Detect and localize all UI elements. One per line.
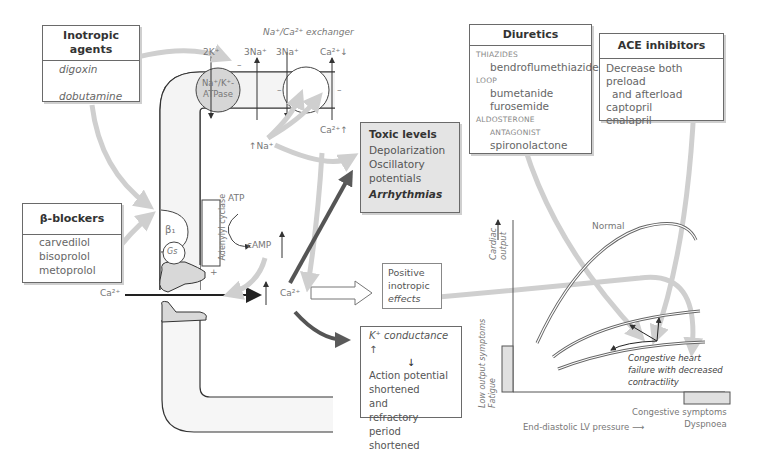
label-line: contractility xyxy=(628,376,723,388)
beta1-receptor-label: β₁ xyxy=(165,224,175,235)
effect-text: Positive xyxy=(388,266,436,279)
ion-label: Ca²⁺ xyxy=(100,288,120,298)
drug-item: bisoprolol xyxy=(39,249,105,263)
ion-label: 3Na⁺ xyxy=(276,47,299,57)
plus-sign: + xyxy=(210,267,218,277)
ion-label: Ca²⁺↓ xyxy=(320,47,348,57)
ion-label: 3Na⁺ xyxy=(244,47,267,57)
chf-label: Congestive heartfailure with decreasedco… xyxy=(628,352,723,388)
congestive-label: Congestive symptomsDyspnoea xyxy=(632,406,727,430)
drug-item: enalapril xyxy=(606,114,717,127)
positive-inotropic-box: Positive inotropic effects xyxy=(382,263,442,309)
label-line: Low output symptoms xyxy=(478,319,488,408)
down-arrow-icon: ↓ xyxy=(369,357,453,369)
congestive-bar xyxy=(684,392,730,404)
label-line: Congestive symptoms xyxy=(632,406,727,418)
beta-blockers-box: β-blockers carvedilol bisoprolol metopro… xyxy=(22,203,122,283)
diuretics-box: Diuretics THIAZIDES bendroflumethiazide … xyxy=(469,24,592,154)
toxic-effect: potentials xyxy=(369,171,451,185)
effect-text: shortened xyxy=(369,383,453,397)
box-title: Inotropic xyxy=(45,29,137,43)
ion-label: 2K⁺ xyxy=(203,47,219,57)
ion-label: Ca²⁺ xyxy=(280,288,300,298)
drug-item: captopril xyxy=(606,101,717,114)
minus-sign: – xyxy=(337,85,342,95)
label-line: Congestive heart xyxy=(628,352,723,364)
effect-text: Action potential xyxy=(369,369,453,383)
box-title: β-blockers xyxy=(23,204,121,235)
arrhythmias-label: Arrhythmias xyxy=(369,187,451,201)
box-title: ACE inhibitors xyxy=(600,34,723,59)
minus-sign: – xyxy=(277,85,282,95)
toxic-levels-box: Toxic levels Depolarization Oscillatory … xyxy=(360,122,460,213)
low-output-label: Low output symptomsFatigue xyxy=(478,319,498,408)
exchanger-label: Na⁺/Ca²⁺ exchanger xyxy=(263,27,354,37)
axis-line: output xyxy=(498,228,508,260)
adenylyl-cyclase-label: Adenylyl cyclase xyxy=(218,201,227,261)
drug-item: carvedilol xyxy=(39,235,105,249)
ace-effect: and afterload xyxy=(606,88,717,101)
drug-class: ALDOSTERONE xyxy=(476,113,585,126)
atpase-line: Na⁺/K⁺- xyxy=(202,78,234,89)
label-line: Fatigue xyxy=(488,319,498,408)
cell-membrane-lower xyxy=(162,320,333,432)
label-line: Dyspnoea xyxy=(632,418,727,430)
ion-label: ↑Na⁺ xyxy=(249,141,274,151)
box-title: K⁺ conductance ↑ xyxy=(369,329,453,357)
label-line: failure with decreased xyxy=(628,364,723,376)
drug-item: metoprolol xyxy=(39,263,105,277)
drug-digoxin: digoxin xyxy=(59,62,123,77)
ace-effect: Decrease both preload xyxy=(606,62,717,88)
camp-label: cAMP xyxy=(247,240,271,250)
normal-curve-label: Normal xyxy=(592,221,625,231)
atp-label: ATP xyxy=(228,193,244,203)
ion-label: Ca²⁺↑ xyxy=(320,125,348,135)
drug-item: bendroflumethiazide xyxy=(476,61,585,74)
y-axis-label: Cardiacoutput xyxy=(488,228,508,260)
toxic-effect: Depolarization xyxy=(369,143,451,157)
calcium-channel-lower xyxy=(162,301,207,322)
atpase-line: ATPase xyxy=(202,89,234,100)
drug-item: bumetanide xyxy=(476,87,585,100)
effect-text: and xyxy=(369,397,453,411)
toxic-effect: Oscillatory xyxy=(369,157,451,171)
inotropic-agents-box: Inotropic agents digoxin dobutamine xyxy=(42,25,140,102)
na-ca-exchanger xyxy=(283,67,329,113)
effect-text: inotropic xyxy=(388,279,436,292)
atpase-label: Na⁺/K⁺-ATPase xyxy=(202,78,234,100)
effect-text: refractory period xyxy=(369,411,453,439)
low-output-bar xyxy=(502,346,513,392)
box-title: agents xyxy=(45,43,137,57)
drug-item: furosemide xyxy=(476,100,585,113)
ace-inhibitors-box: ACE inhibitors Decrease both preload and… xyxy=(599,33,724,121)
axis-line: Cardiac xyxy=(488,228,498,260)
effect-text: effects xyxy=(388,292,436,305)
gs-protein-label: Gs xyxy=(167,247,177,256)
drug-item: spironolactone xyxy=(476,139,585,152)
box-title: Toxic levels xyxy=(369,127,451,141)
minus-sign: – xyxy=(237,60,242,70)
drug-class: THIAZIDES xyxy=(476,48,585,61)
drug-dobutamine: dobutamine xyxy=(59,89,123,104)
drug-class: LOOP xyxy=(476,74,585,87)
effect-text: shortened xyxy=(369,439,453,453)
x-axis-label: End-diastolic LV pressure ⟶ xyxy=(523,422,644,432)
box-title: Diuretics xyxy=(470,25,591,46)
k-conductance-box: K⁺ conductance ↑ ↓ Action potential shor… xyxy=(360,326,462,418)
drug-class: ANTAGONIST xyxy=(476,126,585,139)
